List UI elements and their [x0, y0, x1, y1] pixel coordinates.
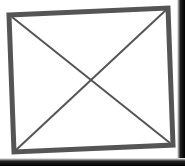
image-placeholder-x-icon [0, 0, 185, 166]
